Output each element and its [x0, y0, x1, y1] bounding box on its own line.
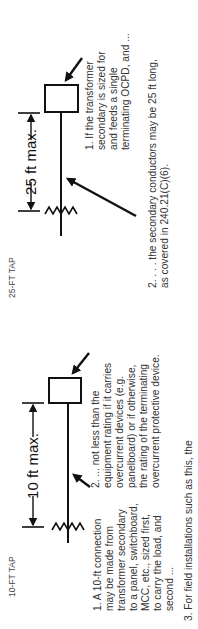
diagram-title: 10-FT TAP: [7, 556, 17, 597]
svg-text:MCC, etc., sized first,: MCC, etc., sized first,: [140, 514, 151, 611]
note-3: 3. For field installations such as this,…: [183, 440, 194, 621]
svg-text:secondary is sized for: secondary is sized for: [96, 51, 107, 150]
svg-text:1. If the transformer: 1. If the transformer: [84, 61, 95, 150]
svg-text:second ...: second ...: [164, 567, 175, 611]
dimension-label: 10 ft max.: [24, 433, 41, 499]
terminating-ocpd-box: [45, 85, 78, 112]
svg-text:equipment rating if it carries: equipment rating if it carries: [102, 363, 113, 488]
arrow-to-box-icon: [66, 58, 82, 80]
svg-text:2. ... not less than the: 2. ... not less than the: [90, 390, 101, 488]
svg-text:1. A 10-ft connection: 1. A 10-ft connection: [92, 519, 103, 611]
svg-text:may be made from: may be made from: [104, 526, 115, 611]
svg-text:as covered in 240.21(C)(6).: as covered in 240.21(C)(6).: [159, 164, 170, 288]
svg-text:terminating OCPD, and ...: terminating OCPD, and ...: [120, 33, 131, 150]
diagram-25ft-tap: 25 ft max. 25-FT TAP 1. If the transform…: [7, 33, 170, 298]
svg-text:and feeds a single: and feeds a single: [108, 67, 119, 150]
diagram-10ft-tap: 10 ft max. 10-FT TAP 2. ... not less tha…: [7, 353, 194, 621]
dimension-label: 25 ft max.: [22, 129, 39, 195]
svg-text:transformer secondary: transformer secondary: [116, 508, 127, 611]
arrow-to-conductor-icon: [68, 179, 136, 216]
svg-text:to carry the load, and: to carry the load, and: [152, 515, 163, 611]
svg-text:3. For field installations suc: 3. For field installations such as this,…: [183, 440, 194, 621]
svg-text:the rating of the terminating: the rating of the terminating: [138, 364, 149, 488]
note-1: 1. A 10-ft connection may be made from t…: [92, 503, 175, 611]
svg-text:to a panel, switchboard,: to a panel, switchboard,: [128, 503, 139, 611]
svg-text:overcurrent devices (e.g.: overcurrent devices (e.g.: [114, 376, 125, 488]
note-1: 1. If the transformer secondary is sized…: [84, 33, 131, 150]
note-2: 2. . . . the secondary conductors may be…: [147, 59, 170, 288]
note-2: 2. ... not less than the equipment ratin…: [90, 354, 161, 488]
svg-text:overcurrent protective device.: overcurrent protective device.: [150, 354, 161, 488]
panel-box: [49, 378, 81, 403]
arrow-to-conductor-icon: [74, 475, 90, 487]
dimension-25ft: 25 ft max.: [18, 113, 40, 211]
svg-text:panelboard) or if otherwise,: panelboard) or if otherwise,: [126, 365, 137, 488]
dimension-10ft: 10 ft max.: [22, 403, 44, 527]
svg-text:2. . . . the secondary conduct: 2. . . . the secondary conductors may be…: [147, 59, 158, 288]
tap-rules-diagram: 25 ft max. 25-FT TAP 1. If the transform…: [0, 0, 198, 629]
arrow-to-box-icon: [73, 353, 89, 373]
diagram-title: 25-FT TAP: [7, 257, 17, 298]
